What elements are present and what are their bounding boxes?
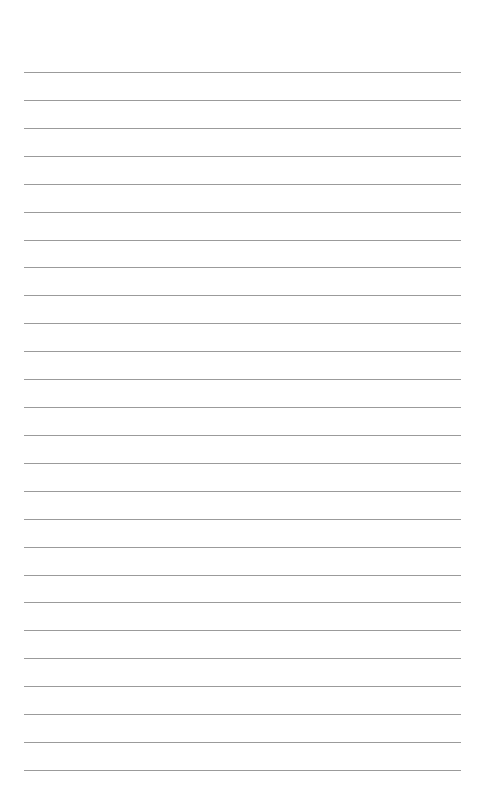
ruled-line xyxy=(24,267,461,268)
ruled-line xyxy=(24,547,461,548)
ruled-line xyxy=(24,630,461,631)
ruled-line xyxy=(24,407,461,408)
ruled-line xyxy=(24,295,461,296)
ruled-line xyxy=(24,351,461,352)
ruled-line xyxy=(24,491,461,492)
ruled-line xyxy=(24,323,461,324)
ruled-line xyxy=(24,658,461,659)
lined-paper-page xyxy=(0,0,481,804)
ruled-line xyxy=(24,742,461,743)
ruled-line xyxy=(24,602,461,603)
ruled-line xyxy=(24,686,461,687)
ruled-line xyxy=(24,435,461,436)
ruled-line xyxy=(24,184,461,185)
ruled-line xyxy=(24,379,461,380)
ruled-line xyxy=(24,770,461,771)
ruled-line xyxy=(24,128,461,129)
ruled-line xyxy=(24,156,461,157)
ruled-line xyxy=(24,240,461,241)
ruled-line xyxy=(24,463,461,464)
ruled-line xyxy=(24,100,461,101)
ruled-line xyxy=(24,212,461,213)
ruled-line xyxy=(24,575,461,576)
ruled-line xyxy=(24,519,461,520)
ruled-line xyxy=(24,72,461,73)
ruled-line xyxy=(24,714,461,715)
